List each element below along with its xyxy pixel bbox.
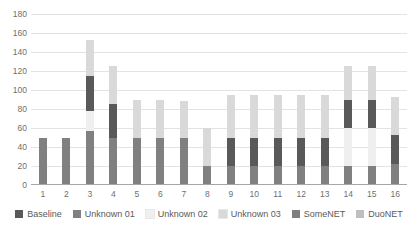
legend-label: DuoNET [368,209,403,219]
bar-group [180,14,188,185]
x-axis-tick-label: 13 [320,189,329,199]
bar-group [86,14,94,185]
bar-segment [227,166,235,185]
bar-segment [109,104,117,137]
bar-group [133,14,141,185]
bar-segment [39,138,47,186]
x-axis-tick-label: 6 [158,189,163,199]
bar-segment [86,40,94,76]
bar-segment [368,128,376,166]
x-axis-tick-label: 5 [134,189,139,199]
bar-segment [391,164,399,185]
y-axis-tick-label: 140 [13,48,27,57]
bar-segment [203,166,211,185]
x-axis-line [31,184,407,185]
legend-swatch-icon [146,210,154,218]
bar-series-container [31,14,407,185]
legend-label: Unknown 02 [158,209,208,219]
x-axis-tick-label: 15 [367,189,376,199]
bar-segment [321,138,329,167]
legend-label: Baseline [27,209,62,219]
bar-segment [180,101,188,137]
bar-segment [344,66,352,99]
bar-group [391,14,399,185]
bar-segment [344,128,352,166]
legend-item[interactable]: Unknown 03 [219,209,281,219]
bar-segment [86,111,94,131]
bar-group [203,14,211,185]
bar-segment [368,100,376,129]
bar-segment [109,138,117,186]
bar-group [297,14,305,185]
bar-segment [274,166,282,185]
legend-item[interactable]: Unknown 02 [146,209,208,219]
plot-area [31,14,407,185]
y-axis: 180160140120100806040200 [0,0,31,185]
x-axis-tick-label: 1 [40,189,45,199]
y-axis-tick-label: 20 [18,162,27,171]
legend-swatch-icon [15,210,23,218]
x-axis-tick-label: 7 [181,189,186,199]
bar-segment [391,135,399,164]
y-axis-tick-label: 100 [13,86,27,95]
x-axis-tick-label: 4 [111,189,116,199]
bar-segment [274,138,282,167]
bar-segment [156,100,164,138]
bar-segment [227,95,235,138]
x-axis-tick-label: 16 [391,189,400,199]
y-axis-tick-label: 120 [13,67,27,76]
bar-segment [109,66,117,104]
bar-group [344,14,352,185]
bar-group [368,14,376,185]
bar-group [62,14,70,185]
y-axis-tick-label: 40 [18,143,27,152]
x-axis-tick-label: 12 [297,189,306,199]
bar-segment [62,138,70,186]
legend-label: Unknown 01 [85,209,135,219]
bar-group [109,14,117,185]
bar-segment [274,95,282,138]
bar-segment [133,100,141,138]
x-axis-tick-label: 9 [228,189,233,199]
bar-segment [368,66,376,99]
bar-segment [297,166,305,185]
legend-item[interactable]: Unknown 01 [73,209,135,219]
legend-swatch-icon [219,210,227,218]
x-axis: 12345678910111213141516 [31,186,407,202]
stacked-bar-chart: 180160140120100806040200 123456789101112… [0,0,418,234]
bar-segment [391,97,399,135]
y-axis-tick-label: 180 [13,10,27,19]
legend-item[interactable]: SomeNET [292,209,346,219]
bar-segment [368,166,376,185]
bar-group [39,14,47,185]
legend-swatch-icon [356,210,364,218]
y-axis-tick-label: 160 [13,29,27,38]
bar-segment [250,138,258,167]
legend-label: SomeNET [304,209,346,219]
bar-segment [86,76,94,111]
bar-segment [133,138,141,186]
x-axis-tick-label: 8 [205,189,210,199]
bar-group [274,14,282,185]
legend-item[interactable]: DuoNET [356,209,403,219]
bar-group [250,14,258,185]
bar-segment [250,166,258,185]
x-axis-tick-label: 11 [273,189,282,199]
bar-segment [321,166,329,185]
bar-group [156,14,164,185]
legend-item[interactable]: Baseline [15,209,62,219]
bar-segment [297,95,305,138]
x-axis-tick-label: 14 [344,189,353,199]
bar-segment [227,138,235,167]
bar-segment [156,138,164,186]
bar-segment [344,166,352,185]
bar-segment [297,138,305,167]
y-axis-tick-label: 80 [18,105,27,114]
legend-swatch-icon [73,210,81,218]
bar-group [321,14,329,185]
chart-legend: BaselineUnknown 01Unknown 02Unknown 03So… [0,205,418,223]
y-axis-tick-label: 0 [22,181,27,190]
x-axis-tick-label: 10 [250,189,259,199]
bar-group [227,14,235,185]
bar-segment [321,95,329,138]
